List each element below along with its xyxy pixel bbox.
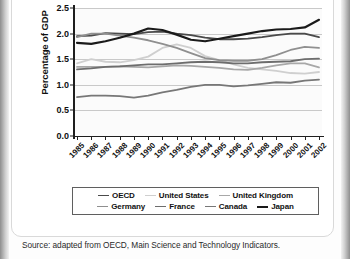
legend-item-united-kingdom[interactable]: United Kingdom [219, 191, 293, 200]
legend-row: OECDUnited StatesUnited Kingdom [73, 190, 318, 201]
legend-label: Germany [111, 202, 145, 211]
legend-label: Canada [219, 202, 247, 211]
x-tick-mark [234, 136, 235, 140]
legend-item-canada[interactable]: Canada [205, 202, 247, 211]
legend-swatch-icon [145, 195, 156, 196]
x-tick-label: 2002 [309, 141, 328, 160]
series-lines [74, 8, 322, 136]
x-tick-mark [248, 136, 249, 140]
legend-label: Japan [271, 202, 294, 211]
legend-swatch-icon [219, 195, 230, 196]
x-tick-mark [105, 136, 106, 140]
x-tick-mark [177, 136, 178, 140]
x-tick-mark [91, 136, 92, 140]
page-edge-left [0, 0, 9, 259]
y-axis-title: Percentage of GDP [39, 0, 50, 118]
y-tick-label: 2.0 [56, 29, 69, 39]
x-tick-mark [291, 136, 292, 140]
series-line-canada [77, 80, 319, 98]
x-tick-mark [162, 136, 163, 140]
x-tick-mark [219, 136, 220, 140]
x-tick-mark [305, 136, 306, 140]
legend-label: OECD [112, 191, 135, 200]
plot-area: 0.00.51.01.52.02.5 198519861987198819891… [74, 8, 322, 136]
y-tick-label: 1.0 [56, 80, 69, 90]
series-line-germany [77, 34, 319, 61]
legend-row: GermanyFranceCanadaJapan [73, 201, 318, 212]
x-tick-mark [262, 136, 263, 140]
y-tick-label: 1.5 [56, 54, 69, 64]
series-line-japan [77, 20, 319, 44]
legend-label: United Kingdom [233, 191, 293, 200]
line-chart: Percentage of GDP 0.00.51.01.52.02.5 198… [26, 0, 341, 185]
x-tick-mark [319, 136, 320, 140]
legend-item-united-states[interactable]: United States [145, 191, 209, 200]
source-note: Source: adapted from OECD, Main Science … [22, 240, 280, 250]
x-tick-mark [148, 136, 149, 140]
scanned-page: Percentage of GDP 0.00.51.01.52.02.5 198… [0, 0, 350, 259]
legend-swatch-icon [98, 195, 109, 196]
y-tick-label: 0.0 [56, 131, 69, 141]
legend-swatch-icon [205, 206, 216, 207]
legend-swatch-icon [155, 206, 166, 207]
x-tick-mark [191, 136, 192, 140]
legend-item-germany[interactable]: Germany [97, 202, 145, 211]
series-line-united-states [77, 44, 319, 73]
x-tick-mark [276, 136, 277, 140]
legend-item-france[interactable]: France [155, 202, 195, 211]
figure-container: Percentage of GDP 0.00.51.01.52.02.5 198… [11, 0, 334, 237]
legend-label: United States [159, 191, 209, 200]
legend-label: France [169, 202, 195, 211]
chart-legend: OECDUnited StatesUnited KingdomGermanyFr… [72, 187, 319, 215]
x-tick-mark [205, 136, 206, 140]
y-tick-label: 2.5 [56, 3, 69, 13]
legend-swatch-icon [97, 206, 108, 207]
y-tick-label: 0.5 [56, 105, 69, 115]
x-tick-mark [120, 136, 121, 140]
legend-swatch-icon [257, 206, 268, 208]
legend-item-japan[interactable]: Japan [257, 202, 294, 211]
page-edge-right [341, 0, 350, 259]
x-tick-mark [134, 136, 135, 140]
legend-item-oecd[interactable]: OECD [98, 191, 135, 200]
x-tick-mark [77, 136, 78, 140]
